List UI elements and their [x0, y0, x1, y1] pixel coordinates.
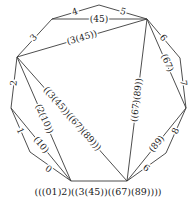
diagonal-label-10: (10): [32, 134, 52, 155]
side-label-5: 5: [119, 6, 128, 17]
root-label: (((01)2)((3(45))((67)(89)))): [34, 186, 161, 197]
side-label-7: 7: [178, 79, 189, 86]
polygon-sides: [11, 5, 186, 181]
side-label-8: 8: [170, 126, 182, 136]
diagonal-label-2-10: (2(10)): [34, 102, 56, 135]
side-label-2: 2: [8, 79, 19, 86]
diagonal-label-3-45: (3(45)): [65, 28, 98, 46]
side-label-0: 0: [43, 163, 54, 175]
side-label-3: 3: [28, 32, 39, 43]
side-label-9: 9: [141, 162, 152, 174]
diagonal-label-67-89: ((67)(89)): [129, 78, 144, 123]
triangulation-diagram: 0 1 2 3 4 5 6 7 8 9 (10) (2(10)) (45) (3…: [0, 0, 194, 200]
diagonal-label-67: (67): [159, 52, 176, 73]
side-label-1: 1: [15, 126, 26, 135]
diagonal-label-45: (45): [90, 14, 108, 24]
